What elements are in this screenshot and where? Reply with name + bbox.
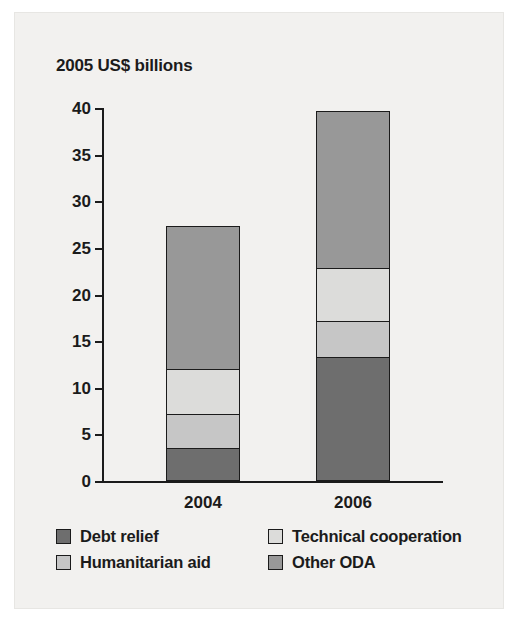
plot-area: 0510152025303540 20042006	[102, 108, 442, 481]
y-tick-label: 15	[72, 332, 91, 352]
bar-segment[interactable]	[316, 268, 390, 323]
bar-segment[interactable]	[166, 226, 240, 370]
bar-segment[interactable]	[166, 448, 240, 481]
y-tick-mark	[95, 481, 103, 483]
y-tick-label: 20	[72, 286, 91, 306]
y-tick-mark	[95, 434, 103, 436]
legend-item[interactable]: Other ODA	[268, 553, 375, 572]
legend-label: Technical cooperation	[292, 527, 462, 546]
y-tick-label: 35	[72, 146, 91, 166]
x-tick-label: 2006	[316, 493, 390, 513]
bar-2006[interactable]	[316, 108, 390, 481]
y-tick-label: 25	[72, 239, 91, 259]
x-tick-label: 2004	[166, 493, 240, 513]
y-tick-mark	[95, 248, 103, 250]
legend-item[interactable]: Humanitarian aid	[56, 553, 268, 572]
bar-segment[interactable]	[166, 413, 240, 449]
y-tick-mark	[95, 155, 103, 157]
y-tick-mark	[95, 341, 103, 343]
chart-title: 2005 US$ billions	[56, 56, 192, 76]
y-tick-label: 0	[82, 472, 91, 492]
bar-segment[interactable]	[316, 356, 390, 481]
y-tick-mark	[95, 108, 103, 110]
legend-label: Other ODA	[292, 553, 375, 572]
y-tick-mark	[95, 201, 103, 203]
legend-label: Debt relief	[80, 527, 159, 546]
chart-legend: Debt reliefTechnical cooperationHumanita…	[56, 527, 466, 579]
y-tick-mark	[95, 295, 103, 297]
legend-swatch-icon	[268, 529, 283, 544]
legend-row: Humanitarian aidOther ODA	[56, 553, 466, 572]
bar-segment[interactable]	[316, 111, 390, 269]
y-tick-label: 30	[72, 192, 91, 212]
legend-item[interactable]: Debt relief	[56, 527, 268, 546]
bar-segment[interactable]	[166, 368, 240, 414]
y-tick-label: 40	[72, 99, 91, 119]
chart-figure: 2005 US$ billions 0510152025303540 20042…	[0, 0, 518, 621]
y-tick-label: 5	[82, 425, 91, 445]
legend-swatch-icon	[56, 555, 71, 570]
y-tick-mark	[95, 388, 103, 390]
y-tick-label: 10	[72, 379, 91, 399]
legend-swatch-icon	[56, 529, 71, 544]
bar-segment[interactable]	[316, 321, 390, 358]
legend-label: Humanitarian aid	[80, 553, 211, 572]
legend-swatch-icon	[268, 555, 283, 570]
bar-2004[interactable]	[166, 108, 240, 481]
legend-item[interactable]: Technical cooperation	[268, 527, 462, 546]
legend-row: Debt reliefTechnical cooperation	[56, 527, 466, 546]
x-axis-line	[102, 481, 443, 483]
